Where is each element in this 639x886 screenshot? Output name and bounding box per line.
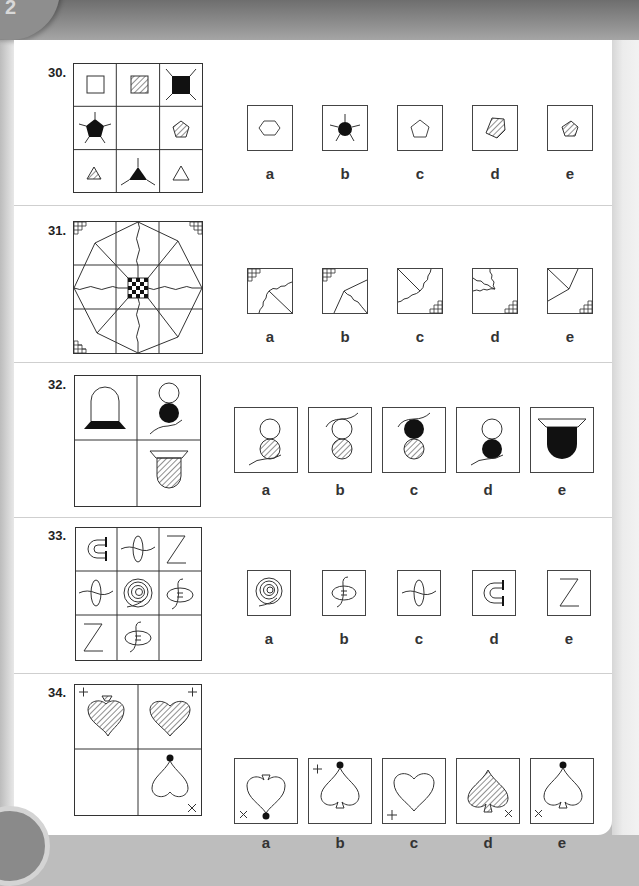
option-e[interactable]: e (530, 407, 594, 498)
question-32: 32. a b (14, 363, 612, 518)
option-label: b (322, 165, 368, 182)
option-label: a (234, 481, 298, 498)
option-label: a (247, 630, 291, 647)
question-grid (73, 221, 203, 354)
option-label: c (397, 165, 443, 182)
option-label: b (322, 630, 366, 647)
option-label: d (456, 834, 520, 851)
option-b[interactable]: b (308, 758, 372, 851)
option-label: e (547, 630, 591, 647)
option-b[interactable]: b (322, 570, 366, 647)
option-e[interactable]: e (547, 570, 591, 647)
question-grid (75, 527, 202, 661)
option-label: c (382, 834, 446, 851)
option-label: b (308, 481, 372, 498)
option-label: e (547, 165, 593, 182)
option-c[interactable]: c (382, 407, 446, 498)
option-label: b (308, 834, 372, 851)
question-31: 31. (14, 206, 612, 363)
question-number: 31. (48, 223, 66, 238)
question-30: 30. (14, 40, 612, 206)
option-label: a (247, 328, 293, 345)
option-b[interactable]: b (322, 105, 368, 182)
option-a[interactable]: a (247, 570, 291, 647)
option-c[interactable]: c (397, 268, 443, 345)
question-number: 32. (48, 377, 66, 392)
option-c[interactable]: c (397, 570, 441, 647)
option-a[interactable]: a (247, 105, 293, 182)
option-d[interactable]: d (456, 758, 520, 851)
option-d[interactable]: d (472, 268, 518, 345)
question-number: 30. (48, 65, 66, 80)
left-page-edge (0, 40, 14, 835)
worksheet-page: 30. (14, 40, 612, 835)
option-b[interactable]: b (308, 407, 372, 498)
option-d[interactable]: d (456, 407, 520, 498)
option-d[interactable]: d (472, 105, 518, 182)
option-label: e (547, 328, 593, 345)
question-number: 33. (48, 528, 66, 543)
question-34: 34. a (14, 674, 612, 835)
option-label: d (472, 165, 518, 182)
option-label: d (456, 481, 520, 498)
option-c[interactable]: c (397, 105, 443, 182)
option-e[interactable]: e (547, 105, 593, 182)
option-a[interactable]: a (234, 407, 298, 498)
option-label: e (530, 834, 594, 851)
option-e[interactable]: e (530, 758, 594, 851)
question-grid (73, 63, 203, 193)
option-e[interactable]: e (547, 268, 593, 345)
question-33: 33. (14, 518, 612, 674)
question-number: 34. (48, 685, 66, 700)
option-d[interactable]: d (472, 570, 516, 647)
question-grid (74, 375, 201, 507)
option-label: e (530, 481, 594, 498)
option-label: c (397, 328, 443, 345)
option-label: d (472, 328, 518, 345)
option-a[interactable]: a (247, 268, 293, 345)
option-a[interactable]: a (234, 758, 298, 851)
question-grid (74, 684, 202, 816)
option-label: a (247, 165, 293, 182)
option-label: d (472, 630, 516, 647)
option-b[interactable]: b (322, 268, 368, 345)
option-label: b (322, 328, 368, 345)
header-band (0, 0, 639, 42)
option-c[interactable]: c (382, 758, 446, 851)
chapter-tab-number: 2 (5, 0, 16, 19)
right-page-edge (612, 40, 639, 835)
option-label: a (234, 834, 298, 851)
option-label: c (382, 481, 446, 498)
option-label: c (397, 630, 441, 647)
